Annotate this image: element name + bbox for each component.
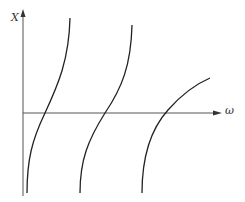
x-axis-arrow-icon [213,111,222,116]
curve-branch-3 [142,78,210,193]
x-axis [23,111,222,116]
curve-branch-1 [27,18,70,193]
y-axis-label: X [11,11,19,24]
y-axis [21,9,26,196]
y-axis-arrow-icon [21,9,26,17]
curve-branch-2 [80,25,132,193]
reactance-diagram [0,0,245,202]
x-axis-label: ω [225,104,234,117]
